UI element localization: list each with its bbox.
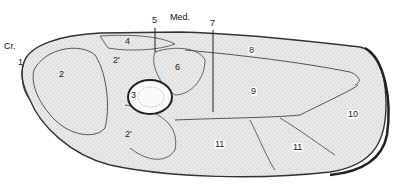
cranial-label: Cr. (4, 42, 16, 51)
label-2-prime-lower: 2' (125, 130, 132, 139)
label-4: 4 (125, 37, 130, 46)
label-10: 10 (347, 110, 359, 119)
label-5: 5 (152, 16, 157, 25)
medial-label: Med. (170, 13, 190, 22)
label-1: 1 (18, 58, 23, 67)
cross-section-illustration (0, 0, 396, 185)
label-11-right: 11 (292, 143, 303, 152)
label-7: 7 (210, 19, 215, 28)
label-8: 8 (248, 46, 255, 55)
label-2: 2 (59, 70, 64, 79)
label-3: 3 (131, 91, 136, 100)
label-6: 6 (175, 63, 180, 72)
label-9: 9 (250, 87, 257, 96)
label-11-left: 11 (214, 140, 225, 149)
label-2-prime-upper: 2' (113, 56, 120, 65)
outer-outline (22, 32, 386, 177)
